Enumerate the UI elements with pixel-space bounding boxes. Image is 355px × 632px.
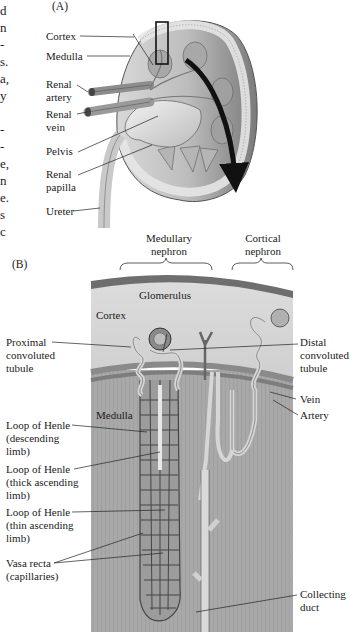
label-collecting-duct: Collecting duct — [300, 588, 346, 614]
label-distal-tubule: Distal convoluted tubule — [300, 336, 349, 375]
label-cortex: Cortex — [46, 30, 76, 43]
label-medulla-b: Medulla — [96, 409, 133, 422]
label-vasa-recta: Vasa recta (capillaries) — [6, 557, 59, 583]
label-cortex-b: Cortex — [96, 309, 126, 322]
label-renal-vein: Renal vein — [46, 108, 72, 134]
label-medulla: Medulla — [46, 50, 83, 63]
label-artery: Artery — [300, 409, 329, 422]
bracket-label-medullary-nephron: Medullary nephron — [138, 232, 200, 258]
bracket-label-cortical-nephron: Cortical nephron — [232, 232, 294, 258]
panel-a-label: (A) — [52, 0, 68, 12]
label-loop-thin-ascending: Loop of Henle (thin ascending limb) — [6, 506, 74, 545]
kidney-illustration — [85, 21, 257, 228]
label-ureter: Ureter — [46, 205, 74, 218]
label-glomerulus: Glomerulus — [139, 289, 191, 302]
label-renal-papilla: Renal papilla — [46, 168, 76, 194]
label-loop-descending: Loop of Henle (descending limb) — [6, 419, 70, 458]
panel-b-label: (B) — [12, 258, 27, 270]
label-proximal-tubule: Proximal convoluted tubule — [6, 336, 55, 375]
label-loop-thick-ascending: Loop of Henle (thick ascending limb) — [6, 463, 78, 502]
label-pelvis: Pelvis — [46, 145, 73, 158]
label-vein: Vein — [300, 393, 320, 406]
nephron-illustration — [91, 275, 293, 632]
nephron-brackets — [120, 258, 293, 270]
label-renal-artery: Renal artery — [46, 78, 72, 104]
